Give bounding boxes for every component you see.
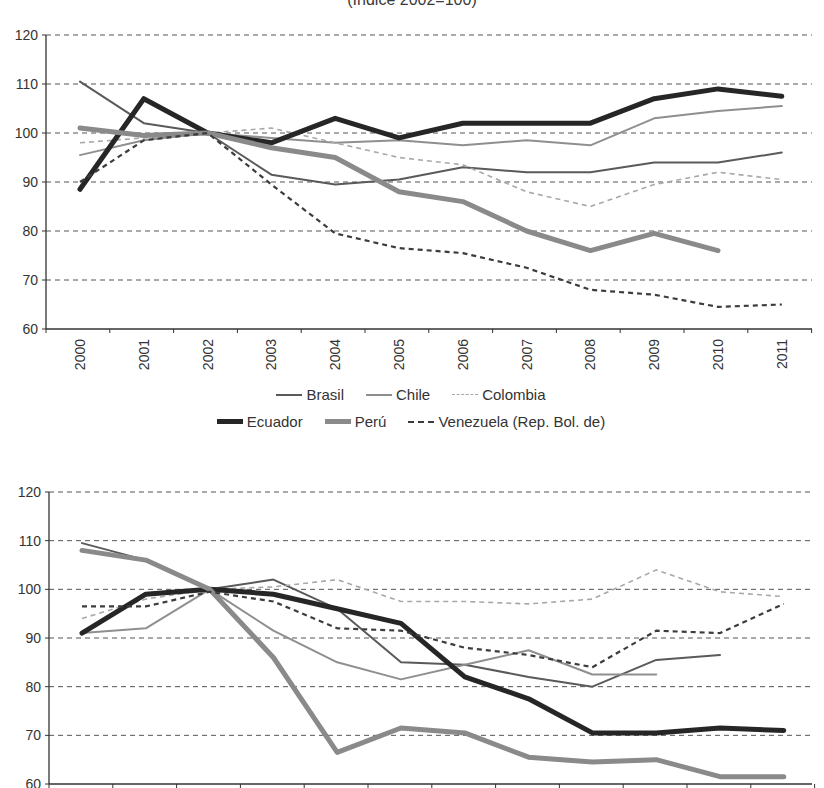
y-tick-label: 90: [22, 174, 38, 190]
x-tick-label: 2003: [263, 339, 279, 370]
legend-item: Brasil: [276, 386, 344, 403]
y-tick-label: 70: [22, 272, 38, 288]
x-tick-label: 2000: [72, 339, 88, 370]
x-tick-label: 2010: [710, 339, 726, 370]
legend-item: Colombia: [452, 386, 545, 403]
legend-swatch-icon: [366, 394, 392, 396]
x-tick-label: 2006: [455, 339, 471, 370]
legend-item: Perú: [325, 413, 387, 430]
y-tick-label: 80: [22, 223, 38, 239]
y-tick-label: 120: [15, 27, 39, 43]
legend-item: Ecuador: [217, 413, 303, 430]
x-tick-label: 2002: [200, 339, 216, 370]
y-tick-label: 120: [18, 484, 42, 500]
y-tick-label: 90: [25, 630, 41, 646]
legend-label: Ecuador: [247, 413, 303, 430]
line-chart-top: 6070809010011012020002001200220032004200…: [0, 0, 824, 380]
legend-row-1: BrasilChileColombia: [276, 386, 567, 403]
series-line-per: [82, 550, 784, 776]
legend-swatch-icon: [325, 419, 351, 424]
y-tick-label: 60: [22, 321, 38, 337]
series-line-per: [80, 128, 718, 251]
legend-swatch-icon: [217, 419, 243, 424]
legend-label: Perú: [355, 413, 387, 430]
legend-label: Venezuela (Rep. Bol. de): [438, 413, 605, 430]
y-tick-label: 100: [18, 581, 42, 597]
series-line-brasil: [82, 543, 720, 687]
x-tick-label: 2005: [391, 339, 407, 370]
legend-item: Venezuela (Rep. Bol. de): [408, 413, 605, 430]
legend-label: Chile: [396, 386, 430, 403]
x-tick-label: 2009: [646, 339, 662, 370]
series-line-colombia: [82, 570, 784, 619]
x-tick-label: 2007: [519, 339, 535, 370]
series-line-venezuela-rep-bol-de: [82, 592, 784, 667]
legend-item: Chile: [366, 386, 430, 403]
y-tick-label: 110: [16, 76, 39, 92]
legend-swatch-icon: [452, 394, 478, 395]
legend-label: Brasil: [306, 386, 344, 403]
legend-row-2: EcuadorPerúVenezuela (Rep. Bol. de): [217, 413, 627, 430]
legend-swatch-icon: [408, 421, 434, 423]
y-tick-label: 100: [15, 125, 39, 141]
legend-swatch-icon: [276, 394, 302, 396]
x-tick-label: 2001: [136, 339, 152, 370]
x-tick-label: 2008: [582, 339, 598, 370]
y-tick-label: 60: [25, 776, 41, 788]
y-tick-label: 110: [19, 533, 42, 549]
series-line-ecuador: [82, 589, 784, 733]
x-tick-label: 2004: [327, 339, 343, 370]
legend-label: Colombia: [482, 386, 545, 403]
series-line-chile: [82, 589, 656, 679]
x-tick-label: 2011: [774, 339, 790, 369]
y-tick-label: 70: [25, 727, 41, 743]
y-tick-label: 80: [25, 679, 41, 695]
series-line-venezuela-rep-bol-de: [80, 133, 782, 307]
